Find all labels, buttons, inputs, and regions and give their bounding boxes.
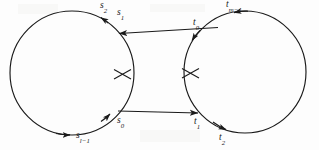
label-s-l-minus-1: sl−1 (76, 131, 90, 141)
right-cycle-group (184, 11, 306, 133)
label-t1: t1 (194, 117, 200, 127)
s0-to-t1-arrow (118, 111, 198, 113)
label-s2: s2 (100, 1, 107, 11)
label-s0: s0 (117, 116, 124, 126)
left-cut-mark (114, 70, 131, 80)
t0-to-s1-arrow (119, 28, 218, 34)
label-t0: t0 (193, 18, 199, 28)
label-t-m-minus-1: tm−1 (226, 0, 242, 10)
right-cycle-arrow-upper-left (192, 31, 200, 41)
right-cycle-arrow-bottom (213, 122, 226, 130)
left-cycle-circle (10, 11, 134, 135)
label-t2: t2 (219, 133, 225, 143)
left-cycle-arrow-bottom (56, 134, 70, 135)
label-s1: s1 (117, 8, 124, 18)
left-cycle-group (10, 11, 134, 135)
diagram-svg (0, 0, 319, 150)
left-cycle-arrow-lower-right (101, 114, 110, 122)
figure-canvas: s2 s1 s0 sl−1 tm−1 t0 t1 t2 (0, 0, 319, 150)
left-cycle-arrow-top (101, 18, 108, 23)
right-cycle-circle (184, 11, 306, 133)
